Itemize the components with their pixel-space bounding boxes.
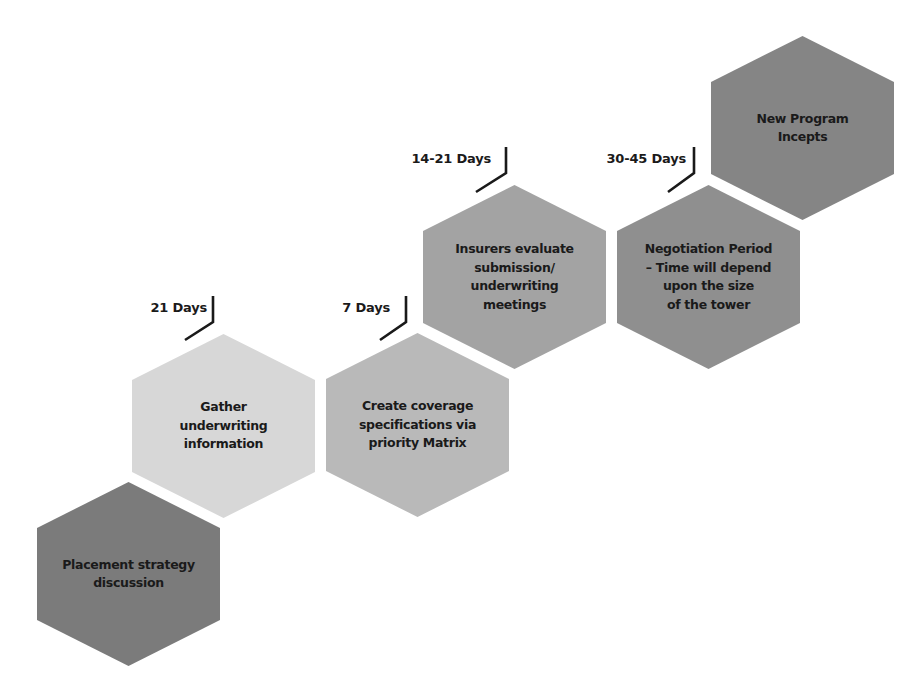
duration-label-14-21-days: 14-21 Days xyxy=(412,151,491,166)
duration-label-21-days: 21 Days xyxy=(150,300,207,315)
hexagon-timeline-diagram: Placement strategy discussion Gather und… xyxy=(0,0,919,693)
duration-label-30-45-days: 30-45 Days xyxy=(607,151,686,166)
duration-label-7-days: 7 Days xyxy=(342,300,390,315)
duration-bracket-lines xyxy=(0,0,919,693)
